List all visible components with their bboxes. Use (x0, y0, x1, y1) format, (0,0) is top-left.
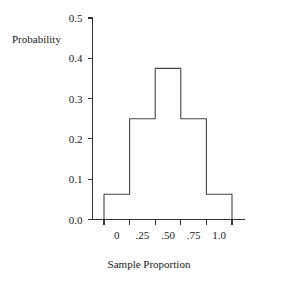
x-tick-label: .25 (136, 229, 150, 241)
x-axis-title: Sample Proportion (0, 257, 298, 271)
x-tick-label: 0 (114, 229, 120, 241)
chart-plot-area: 0.00.10.20.30.40.5 0.25.50.751.0 (0, 0, 298, 286)
x-tick-label: 1.0 (212, 229, 226, 241)
y-tick-label: 0.3 (69, 93, 83, 105)
y-tick-label: 0.0 (69, 214, 83, 226)
y-tick-label: 0.1 (69, 173, 83, 185)
x-axis-ticks: 0.25.50.751.0 (104, 220, 232, 241)
y-axis-ticks: 0.00.10.20.30.40.5 (69, 12, 93, 226)
y-tick-label: 0.4 (69, 52, 83, 64)
probability-histogram-figure: Probability 0.00.10.20.30.40.5 0.25.50.7… (0, 0, 298, 286)
y-tick-label: 0.5 (69, 12, 83, 24)
x-tick-label: .50 (161, 229, 175, 241)
histogram-bars (104, 68, 232, 219)
x-tick-label: .75 (187, 229, 201, 241)
y-tick-label: 0.2 (69, 133, 83, 145)
